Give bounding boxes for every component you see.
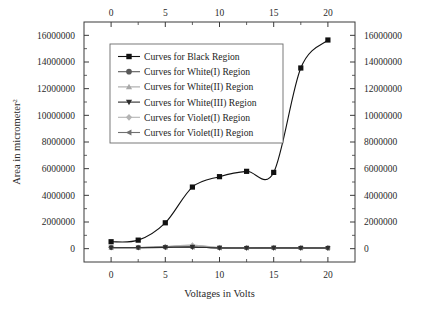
x-tick-label-top: 20 [323, 8, 333, 18]
y-tick-label: 0 [70, 244, 75, 254]
x-tick-label-top: 5 [163, 8, 168, 18]
y-tick-label-right: 6000000 [364, 164, 398, 174]
legend-label: Curves for Violet(II) Region [144, 127, 253, 139]
x-tick-label: 15 [269, 270, 279, 280]
legend-label: Curves for White(II) Region [144, 81, 254, 93]
y-tick-label-right: 14000000 [364, 57, 402, 67]
legend-marker [126, 69, 132, 75]
data-point-marker [217, 174, 222, 179]
x-tick-label: 5 [163, 270, 168, 280]
y-axis-title: Area in micrometer2 [11, 99, 23, 184]
legend-label: Curves for White(I) Region [144, 66, 250, 78]
x-axis-title: Voltages in Volts [184, 288, 255, 299]
data-point-marker [136, 238, 141, 243]
legend-label: Curves for Black Region [144, 51, 240, 62]
data-point-marker [190, 184, 195, 189]
legend-marker [126, 54, 131, 59]
y-tick-label: 14000000 [37, 57, 75, 67]
y-tick-label-right: 10000000 [364, 111, 402, 121]
y-tick-label: 16000000 [37, 31, 75, 41]
x-tick-label: 10 [215, 270, 225, 280]
y-tick-label: 12000000 [37, 84, 75, 94]
y-tick-label: 2000000 [42, 217, 76, 227]
y-tick-label-right: 12000000 [364, 84, 402, 94]
legend-label: Curves for Violet(I) Region [144, 112, 250, 124]
y-tick-label-right: 4000000 [364, 191, 398, 201]
y-tick-label: 6000000 [42, 164, 76, 174]
chart-figure: 0055101015152020002000000200000040000004… [0, 0, 428, 309]
data-point-marker [244, 169, 249, 174]
data-point-marker [163, 220, 168, 225]
data-point-marker [298, 65, 303, 70]
line-chart: 0055101015152020002000000200000040000004… [0, 0, 428, 309]
x-tick-label: 0 [109, 270, 114, 280]
y-tick-label-right: 16000000 [364, 31, 402, 41]
x-tick-label: 20 [323, 270, 333, 280]
y-tick-label: 8000000 [42, 137, 76, 147]
y-tick-label: 4000000 [42, 191, 76, 201]
data-point-marker [271, 170, 276, 175]
data-point-marker [109, 239, 114, 244]
legend-label: Curves for White(III) Region [144, 97, 257, 109]
y-tick-label: 10000000 [37, 111, 75, 121]
x-tick-label-top: 10 [215, 8, 225, 18]
chart-legend[interactable]: Curves for Black RegionCurves for White(… [110, 44, 283, 143]
data-point-marker [325, 37, 330, 42]
y-tick-label-right: 2000000 [364, 217, 398, 227]
x-tick-label-top: 15 [269, 8, 279, 18]
y-tick-label-right: 0 [364, 244, 369, 254]
x-tick-label-top: 0 [109, 8, 114, 18]
y-tick-label-right: 8000000 [364, 137, 398, 147]
